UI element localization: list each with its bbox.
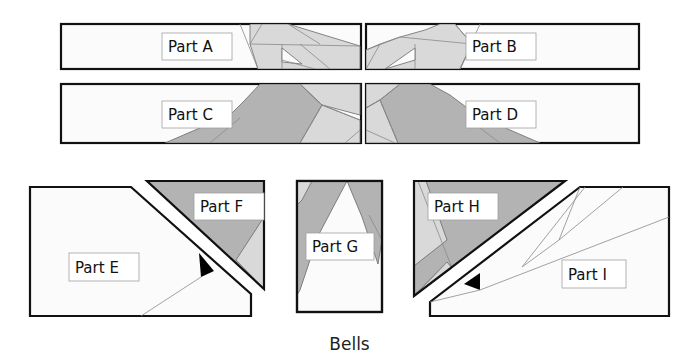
part-b-label: Part B [472,38,517,56]
part-f-label: Part F [200,198,243,216]
part-d-label: Part D [472,106,518,124]
diagram-caption: Bells [0,334,699,354]
bells-diagram: Part A Part B Part C [0,0,699,361]
part-e-label: Part E [75,259,119,277]
part-c: Part C [61,84,361,143]
part-a: Part A [61,24,361,69]
part-g: Part G [297,181,382,312]
part-h-label: Part H [434,198,480,216]
part-d: Part D [366,84,639,143]
part-b: Part B [366,24,639,69]
part-g-label: Part G [312,238,358,256]
part-i-label: Part I [568,266,607,284]
part-a-label: Part A [168,38,213,56]
part-c-label: Part C [168,106,213,124]
